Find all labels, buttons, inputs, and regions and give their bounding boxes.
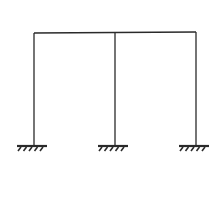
fixed-support-middle-icon [98,146,128,151]
fixed-support-left-icon [17,146,47,151]
fixed-support-right-icon [179,146,209,151]
portal-frame-diagram [0,0,218,207]
top-beam [34,32,196,33]
